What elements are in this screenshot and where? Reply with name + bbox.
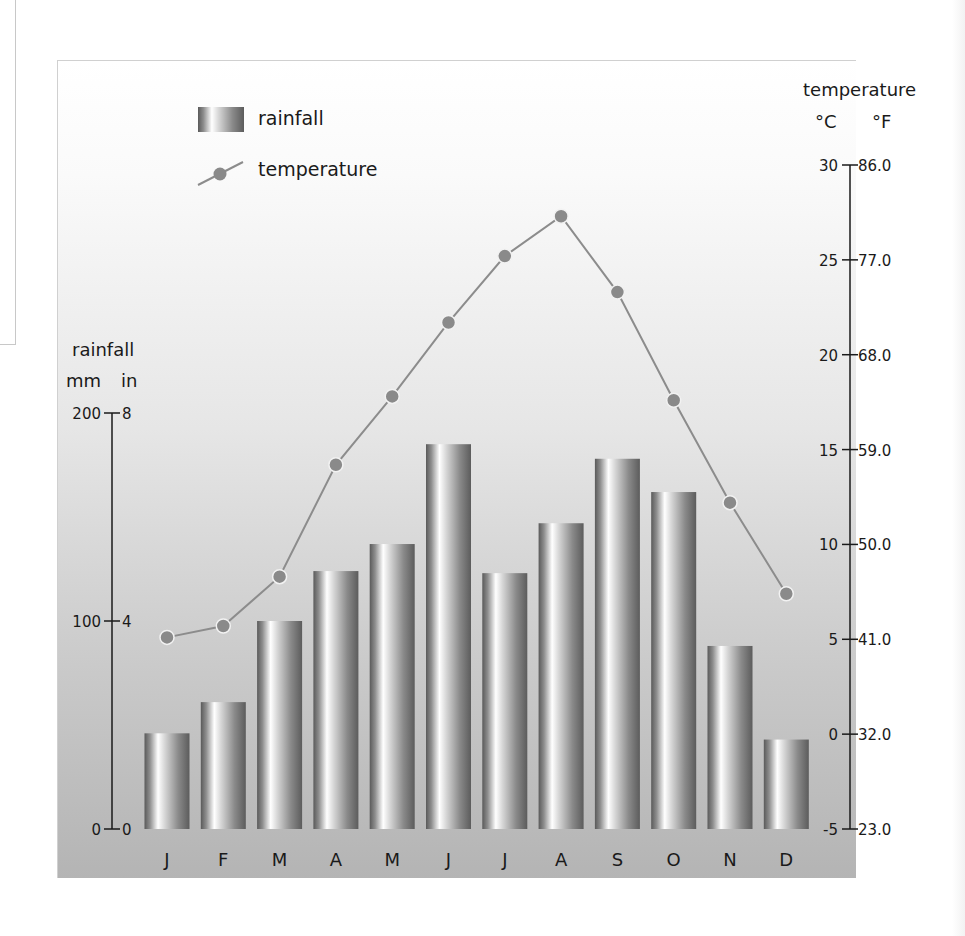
legend-temperature-label: temperature [258, 158, 377, 180]
x-tick-label: S [612, 849, 623, 870]
right-tick-c: 15 [819, 442, 838, 460]
rainfall-bar [257, 621, 302, 829]
right-axis: temperature °C °F 3086.02577.02068.01559… [803, 79, 916, 839]
temperature-point [442, 315, 456, 329]
right-axis-unit-c: °C [815, 111, 837, 132]
left-tick-in: 8 [122, 405, 132, 423]
x-tick-label: D [779, 849, 793, 870]
temperature-point [554, 209, 568, 223]
x-tick-label: J [163, 849, 169, 870]
rainfall-bar [145, 733, 190, 829]
rainfall-bar [539, 523, 584, 829]
legend-rainfall-label: rainfall [258, 107, 324, 129]
temperature-point [723, 496, 737, 510]
temperature-line [160, 209, 793, 644]
x-tick-label: J [445, 849, 451, 870]
right-tick-f: 86.0 [858, 157, 891, 175]
right-tick-f: 68.0 [858, 347, 891, 365]
left-axis: rainfall mm in 2008100400 [66, 339, 137, 839]
temperature-point [160, 630, 174, 644]
temperature-point [385, 389, 399, 403]
x-tick-label: J [501, 849, 507, 870]
rainfall-bar [708, 646, 753, 829]
climate-chart: rainfall temperature rainfall mm in 2008… [0, 0, 965, 936]
rainfall-bar [482, 573, 527, 829]
temperature-point [498, 249, 512, 263]
right-tick-c: 10 [819, 536, 838, 554]
right-tick-f: 77.0 [858, 252, 891, 270]
legend-temperature-swatch [198, 162, 243, 185]
right-tick-f: 32.0 [858, 726, 891, 744]
rainfall-bar [764, 740, 809, 829]
x-tick-label: N [723, 849, 736, 870]
rainfall-bar [651, 492, 696, 829]
x-tick-label: A [555, 849, 568, 870]
left-axis-title: rainfall [72, 339, 134, 360]
temperature-point [329, 458, 343, 472]
right-tick-f: 59.0 [858, 442, 891, 460]
legend-rainfall-swatch [198, 107, 244, 132]
legend: rainfall temperature [198, 107, 377, 185]
left-tick-mm: 0 [91, 821, 101, 839]
rainfall-bar [370, 544, 415, 829]
rainfall-bar [595, 459, 640, 829]
rainfall-bars [145, 444, 809, 829]
temperature-point [216, 619, 230, 633]
right-tick-c: -5 [823, 821, 838, 839]
right-tick-f: 41.0 [858, 631, 891, 649]
temperature-point [610, 285, 624, 299]
temperature-point [273, 570, 287, 584]
right-tick-c: 25 [819, 252, 838, 270]
right-tick-c: 5 [828, 631, 838, 649]
right-tick-f: 50.0 [858, 536, 891, 554]
right-tick-f: 23.0 [858, 821, 891, 839]
rainfall-bar [426, 444, 471, 829]
left-tick-in: 4 [122, 613, 132, 631]
left-axis-unit-in: in [121, 370, 137, 391]
left-tick-mm: 100 [72, 613, 101, 631]
right-tick-c: 20 [819, 347, 838, 365]
temperature-point [779, 587, 793, 601]
x-axis-labels: JFMAMJJASOND [163, 849, 793, 870]
left-axis-unit-mm: mm [66, 370, 101, 391]
left-tick-mm: 200 [72, 405, 101, 423]
temperature-point [667, 393, 681, 407]
x-tick-label: O [667, 849, 681, 870]
x-tick-label: F [218, 849, 228, 870]
right-axis-title: temperature [803, 79, 916, 100]
right-tick-c: 0 [828, 726, 838, 744]
x-tick-label: A [330, 849, 343, 870]
x-tick-label: M [272, 849, 288, 870]
left-tick-in: 0 [122, 821, 132, 839]
rainfall-bar [201, 702, 246, 829]
right-axis-unit-f: °F [872, 111, 891, 132]
x-tick-label: M [384, 849, 400, 870]
rainfall-bar [313, 571, 358, 829]
right-tick-c: 30 [819, 157, 838, 175]
